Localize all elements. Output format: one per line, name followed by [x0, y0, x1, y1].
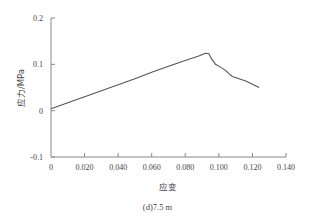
y-tick-label: 0.1 — [33, 60, 43, 69]
axes — [51, 18, 286, 157]
x-tick-label: 0 — [49, 163, 53, 172]
x-tick-label: 0.020 — [76, 163, 94, 172]
x-tick-label: 0.060 — [143, 163, 161, 172]
y-tick-label: -0.1 — [30, 153, 43, 162]
stress-strain-chart: -0.100.10.200.0200.0400.0600.0800.1000.1… — [0, 0, 315, 224]
figure-caption: (d)7.5 m — [0, 202, 315, 212]
x-tick-label: 0.140 — [277, 163, 295, 172]
tick-labels: -0.100.10.200.0200.0400.0600.0800.1000.1… — [30, 14, 295, 172]
x-tick-label: 0.100 — [210, 163, 228, 172]
x-axis-title: 应变 — [159, 182, 177, 192]
x-tick-label: 0.120 — [243, 163, 261, 172]
x-tick-label: 0.080 — [176, 163, 194, 172]
y-tick-label: 0.2 — [33, 14, 43, 23]
x-tick-label: 0.040 — [109, 163, 127, 172]
y-axis-title: 应力/MPa — [16, 69, 26, 107]
stress-strain-curve — [51, 53, 259, 109]
y-tick-label: 0 — [39, 107, 43, 116]
